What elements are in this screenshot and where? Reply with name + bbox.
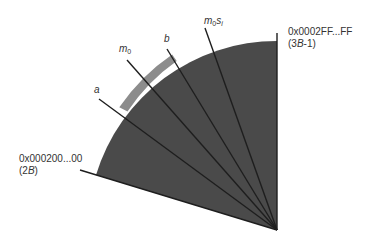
start-value-text: (2B) [19, 165, 82, 177]
label-a: a [94, 84, 100, 96]
sector-diagram: a m0 b m0si 0x0002FF...FF (3B-1) 0x00020… [0, 0, 369, 246]
start-value-suffix: ) [35, 165, 38, 176]
end-address-text: 0x0002FF...FF [288, 26, 352, 38]
label-m0si-sub-i: i [221, 20, 223, 27]
label-b: b [164, 33, 170, 45]
start-address-label: 0x000200...00 (2B) [19, 153, 82, 177]
start-value-var: B [28, 165, 35, 176]
end-value-text: (3B-1) [288, 38, 352, 50]
label-m0si: m0si [204, 15, 223, 30]
label-m0: m0 [119, 43, 131, 58]
end-address-label: 0x0002FF...FF (3B-1) [288, 26, 352, 50]
label-b-text: b [164, 33, 170, 44]
start-value-prefix: (2 [19, 165, 28, 176]
end-value-prefix: (3 [288, 38, 297, 49]
dark-sector [96, 41, 277, 230]
label-m0-sub: 0 [127, 48, 131, 55]
label-a-text: a [94, 84, 100, 95]
end-value-suffix: -1) [304, 38, 316, 49]
start-address-text: 0x000200...00 [19, 153, 82, 165]
end-value-var: B [297, 38, 304, 49]
